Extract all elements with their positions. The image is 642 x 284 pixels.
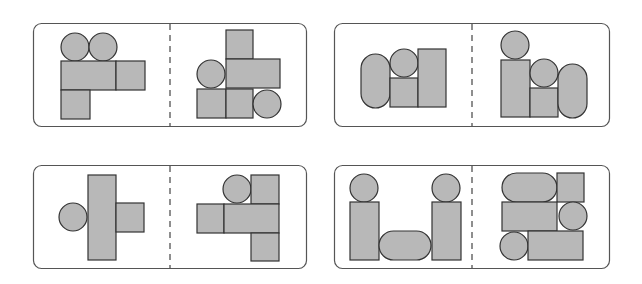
right-figure-square [530, 88, 558, 117]
left-figure-stadium [379, 231, 431, 260]
right-figure [500, 173, 587, 260]
left-figure-circle [390, 49, 418, 77]
right-figure-circle [559, 202, 587, 230]
left-figure-square [350, 202, 379, 260]
right-figure-square [226, 89, 253, 118]
left-figure-square [116, 203, 144, 232]
right-figure [197, 175, 279, 261]
left-figure [61, 33, 145, 119]
shape-puzzle-diagram [0, 0, 642, 284]
right-figure-circle [501, 31, 529, 59]
right-figure-square [224, 204, 279, 233]
left-figure [361, 49, 446, 108]
left-figure-circle [89, 33, 117, 61]
panel-bottom-left [34, 166, 307, 269]
left-figure-square [418, 49, 446, 107]
right-figure-square [501, 60, 530, 117]
left-figure-circle [59, 203, 87, 231]
left-figure-square [88, 175, 116, 260]
right-figure-square [197, 204, 224, 233]
right-figure-circle [223, 175, 251, 203]
right-figure-square [226, 30, 253, 59]
right-figure-circle [197, 60, 225, 88]
right-figure-circle [500, 232, 528, 260]
right-figure [501, 31, 587, 118]
panel-bottom-right [335, 166, 610, 269]
left-figure-circle [350, 174, 378, 202]
left-figure-square [61, 90, 90, 119]
right-figure-square [502, 202, 557, 231]
right-figure-square [528, 231, 583, 260]
right-figure-square [226, 59, 280, 88]
right-figure-square [251, 233, 279, 261]
right-figure-circle [530, 59, 558, 87]
left-figure-stadium [361, 54, 390, 108]
right-figure-stadium [502, 173, 557, 202]
left-figure [59, 175, 144, 260]
panel-top-left [34, 24, 307, 127]
right-figure-square [557, 173, 584, 202]
right-figure-square [197, 89, 226, 118]
right-figure [197, 30, 281, 118]
right-figure-circle [253, 90, 281, 118]
left-figure-square [61, 61, 116, 90]
left-figure-square [390, 78, 418, 107]
left-figure [350, 174, 461, 260]
panel-top-right [335, 24, 610, 127]
left-figure-square [432, 202, 461, 260]
left-figure-circle [61, 33, 89, 61]
left-figure-circle [432, 174, 460, 202]
right-figure-stadium [558, 64, 587, 118]
right-figure-square [251, 175, 279, 204]
left-figure-square [116, 61, 145, 90]
